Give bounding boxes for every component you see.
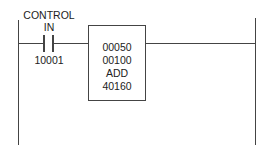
ladder-diagram: CONTROL IN 10001 00050 00100 ADD 40160 xyxy=(0,0,266,151)
rung-wire-left xyxy=(19,43,43,44)
contact-left-bar xyxy=(43,35,45,52)
contact-label-line1: CONTROL xyxy=(18,9,80,21)
block-line1: 00050 xyxy=(89,41,145,54)
right-power-rail xyxy=(255,18,256,145)
rung-wire-right xyxy=(145,43,255,44)
block-operation: ADD xyxy=(89,67,145,80)
left-power-rail xyxy=(18,20,19,145)
contact-address: 10001 xyxy=(18,54,80,66)
block-line4: 40160 xyxy=(89,80,145,93)
block-line2: 00100 xyxy=(89,54,145,67)
contact-label-line2: IN xyxy=(18,21,80,33)
add-function-block: 00050 00100 ADD 40160 xyxy=(88,25,146,101)
rung-wire-middle xyxy=(53,43,88,44)
